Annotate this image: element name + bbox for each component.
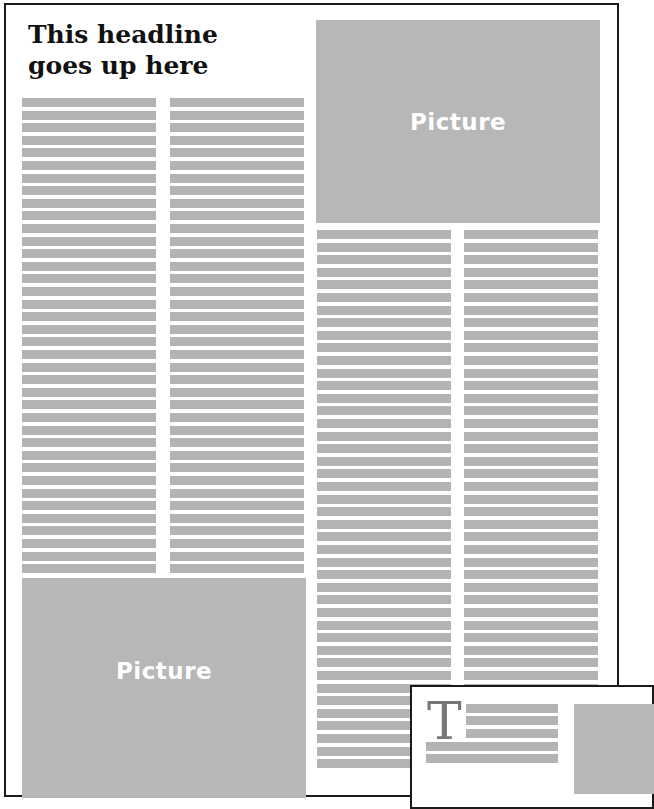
text-line-placeholder <box>464 570 598 579</box>
text-line-placeholder <box>22 300 156 309</box>
text-line-placeholder <box>464 583 598 592</box>
text-line-placeholder <box>317 646 451 655</box>
text-line-placeholder <box>464 255 598 264</box>
text-line-placeholder <box>317 419 451 428</box>
text-line-placeholder <box>464 633 598 642</box>
text-line-placeholder <box>170 564 304 573</box>
text-line-placeholder <box>170 400 304 409</box>
text-line-placeholder <box>317 394 451 403</box>
text-line-placeholder <box>22 438 156 447</box>
text-line-placeholder <box>464 268 598 277</box>
text-line-placeholder <box>317 280 451 289</box>
text-line-placeholder <box>22 199 156 208</box>
text-line-placeholder <box>464 419 598 428</box>
text-line-placeholder <box>317 306 451 315</box>
text-line-placeholder <box>317 520 451 529</box>
text-line-placeholder <box>170 237 304 246</box>
text-line-placeholder <box>170 136 304 145</box>
text-line-placeholder <box>317 583 451 592</box>
text-line-placeholder <box>22 501 156 510</box>
text-line-placeholder <box>466 729 558 738</box>
text-line-placeholder <box>170 337 304 346</box>
page-layout-mockup: This headlinegoes up here Picture Pictur… <box>4 3 619 797</box>
text-line-placeholder <box>22 237 156 246</box>
text-column-1 <box>22 98 156 574</box>
text-line-placeholder <box>464 444 598 453</box>
text-line-placeholder <box>464 482 598 491</box>
text-line-placeholder <box>317 356 451 365</box>
text-line-placeholder <box>464 306 598 315</box>
text-line-placeholder <box>464 671 598 680</box>
text-line-placeholder <box>22 400 156 409</box>
text-line-placeholder <box>22 262 156 271</box>
text-line-placeholder <box>317 658 451 667</box>
text-line-placeholder <box>170 186 304 195</box>
text-line-placeholder <box>464 646 598 655</box>
text-line-placeholder <box>170 514 304 523</box>
text-line-placeholder <box>464 318 598 327</box>
text-line-placeholder <box>170 211 304 220</box>
text-line-placeholder <box>464 369 598 378</box>
text-line-placeholder <box>464 621 598 630</box>
text-line-placeholder <box>22 426 156 435</box>
text-line-placeholder <box>464 595 598 604</box>
picture-placeholder-top-right: Picture <box>316 20 600 223</box>
picture-placeholder-bottom-left: Picture <box>22 578 306 798</box>
text-line-placeholder <box>317 507 451 516</box>
overlay-page-mockup: T <box>410 685 654 809</box>
text-line-placeholder <box>466 704 558 713</box>
text-line-placeholder <box>317 243 451 252</box>
text-line-placeholder <box>170 526 304 535</box>
text-line-placeholder <box>170 249 304 258</box>
text-line-placeholder <box>170 350 304 359</box>
text-line-placeholder <box>170 426 304 435</box>
text-line-placeholder <box>464 406 598 415</box>
text-line-placeholder <box>317 331 451 340</box>
text-line-placeholder <box>22 514 156 523</box>
overlay-text-beside-dropcap <box>466 704 558 740</box>
text-line-placeholder <box>170 552 304 561</box>
text-line-placeholder <box>22 211 156 220</box>
text-line-placeholder <box>170 388 304 397</box>
text-line-placeholder <box>464 457 598 466</box>
text-line-placeholder <box>464 608 598 617</box>
text-line-placeholder <box>426 754 558 763</box>
text-line-placeholder <box>170 224 304 233</box>
text-line-placeholder <box>22 224 156 233</box>
text-line-placeholder <box>317 558 451 567</box>
text-line-placeholder <box>317 621 451 630</box>
text-line-placeholder <box>317 343 451 352</box>
overlay-picture-placeholder <box>574 704 654 794</box>
text-line-placeholder <box>317 671 451 680</box>
text-line-placeholder <box>317 532 451 541</box>
text-line-placeholder <box>22 98 156 107</box>
text-line-placeholder <box>170 438 304 447</box>
text-line-placeholder <box>317 381 451 390</box>
text-line-placeholder <box>22 388 156 397</box>
text-line-placeholder <box>317 495 451 504</box>
text-line-placeholder <box>317 293 451 302</box>
text-line-placeholder <box>317 444 451 453</box>
text-line-placeholder <box>170 363 304 372</box>
text-line-placeholder <box>317 268 451 277</box>
text-line-placeholder <box>466 716 558 725</box>
text-line-placeholder <box>170 161 304 170</box>
text-line-placeholder <box>464 495 598 504</box>
text-line-placeholder <box>170 539 304 548</box>
text-line-placeholder <box>317 432 451 441</box>
picture-label: Picture <box>116 658 212 684</box>
text-line-placeholder <box>22 375 156 384</box>
text-line-placeholder <box>22 526 156 535</box>
text-line-placeholder <box>170 325 304 334</box>
text-line-placeholder <box>317 633 451 642</box>
text-line-placeholder <box>170 375 304 384</box>
text-line-placeholder <box>464 293 598 302</box>
text-line-placeholder <box>170 300 304 309</box>
text-line-placeholder <box>22 476 156 485</box>
text-line-placeholder <box>317 318 451 327</box>
text-line-placeholder <box>464 507 598 516</box>
text-line-placeholder <box>22 552 156 561</box>
text-line-placeholder <box>464 381 598 390</box>
text-line-placeholder <box>170 274 304 283</box>
text-line-placeholder <box>317 457 451 466</box>
